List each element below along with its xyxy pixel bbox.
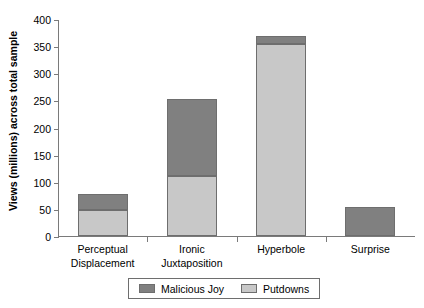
- bar-stack: [167, 99, 217, 236]
- bar-segment-putdowns: [78, 210, 128, 236]
- chart-figure: Views (millions) across total sample 050…: [0, 0, 424, 308]
- chart-legend: Malicious JoyPutdowns: [128, 278, 320, 299]
- y-axis-title: Views (millions) across total sample: [2, 3, 24, 239]
- category-label-line: Ironic: [147, 243, 236, 257]
- category-label: IronicJuxtaposition: [147, 243, 236, 270]
- y-tick-mark: [54, 101, 59, 102]
- y-tick-label: 400: [33, 14, 51, 26]
- y-tick-label: 300: [33, 68, 51, 80]
- y-tick-label: 50: [39, 204, 51, 216]
- y-tick-mark: [54, 183, 59, 184]
- category-label-line: Surprise: [326, 243, 415, 257]
- bar-segment-malicious-joy: [78, 194, 128, 210]
- x-tick-mark: [237, 237, 238, 242]
- category-label-line: Perceptual: [58, 243, 147, 257]
- bar-stack: [345, 207, 395, 236]
- category-label-line: Hyperbole: [237, 243, 326, 257]
- y-tick-label: 200: [33, 123, 51, 135]
- legend-entry: Putdowns: [241, 283, 309, 295]
- category-label-line: Displacement: [58, 257, 147, 271]
- bar-segment-malicious-joy: [345, 207, 395, 236]
- y-tick-mark: [54, 129, 59, 130]
- bar-segment-malicious-joy: [167, 99, 217, 177]
- y-tick-label: 250: [33, 95, 51, 107]
- legend-swatch: [139, 284, 155, 293]
- bar-stack: [78, 194, 128, 236]
- plot-area: 050100150200250300350400: [58, 20, 415, 237]
- bar-segment-putdowns: [167, 176, 217, 236]
- x-tick-mark: [326, 237, 327, 242]
- y-tick-mark: [54, 20, 59, 21]
- y-tick-mark: [54, 237, 59, 238]
- bar-segment-malicious-joy: [256, 36, 306, 44]
- y-tick-label: 100: [33, 177, 51, 189]
- category-label: Surprise: [326, 243, 415, 257]
- y-tick-label: 0: [45, 231, 51, 243]
- legend-label: Malicious Joy: [161, 283, 224, 295]
- legend-entry: Malicious Joy: [139, 283, 224, 295]
- y-tick-mark: [54, 74, 59, 75]
- legend-swatch: [241, 284, 257, 293]
- category-label: Hyperbole: [237, 243, 326, 257]
- y-tick-label: 150: [33, 150, 51, 162]
- legend-label: Putdowns: [263, 283, 309, 295]
- bar-stack: [256, 36, 306, 236]
- x-tick-mark: [147, 237, 148, 242]
- category-label: PerceptualDisplacement: [58, 243, 147, 270]
- bar-segment-putdowns: [256, 44, 306, 236]
- y-tick-label: 350: [33, 41, 51, 53]
- y-tick-mark: [54, 156, 59, 157]
- y-tick-mark: [54, 210, 59, 211]
- y-tick-mark: [54, 47, 59, 48]
- category-label-line: Juxtaposition: [147, 257, 236, 271]
